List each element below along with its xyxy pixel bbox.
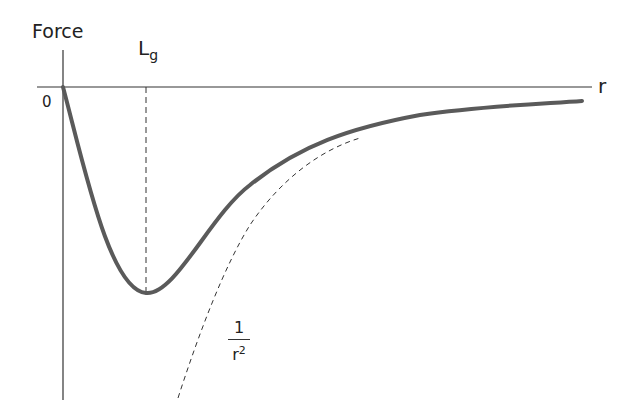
inverse-square-asymptote xyxy=(178,138,360,398)
y-axis-label: Force xyxy=(32,20,83,42)
lg-subscript: g xyxy=(149,47,158,63)
force-diagram xyxy=(0,0,635,417)
lg-main: L xyxy=(138,36,149,60)
fraction-numerator: 1 xyxy=(228,318,250,340)
lg-label: Lg xyxy=(138,36,158,63)
origin-label: 0 xyxy=(42,93,52,111)
denominator-exponent: 2 xyxy=(239,344,246,357)
force-curve xyxy=(63,87,582,293)
denominator-base: r xyxy=(232,345,239,364)
x-axis-label: r xyxy=(598,74,606,98)
inverse-square-label: 1 r2 xyxy=(228,318,250,364)
fraction-denominator: r2 xyxy=(228,340,250,364)
